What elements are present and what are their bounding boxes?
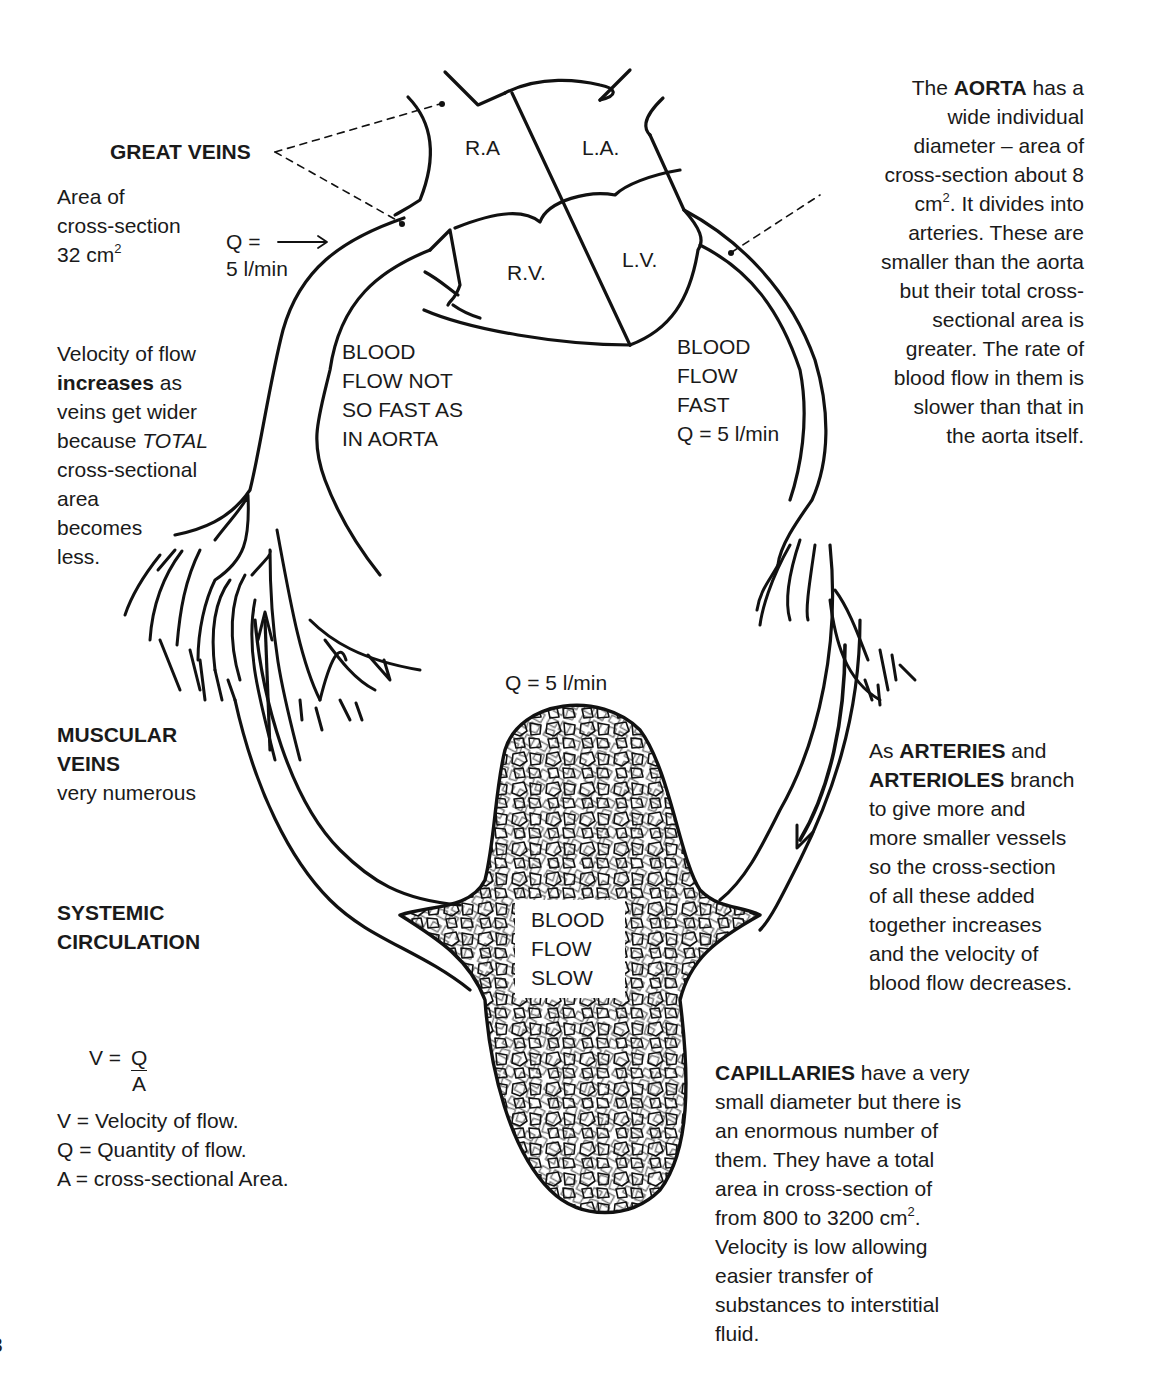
aorta-note-line: diameter – area of	[881, 131, 1084, 160]
chamber-label-left-ventricle: L.V.	[622, 245, 657, 274]
chamber-label-right-atrium: R.A	[465, 133, 500, 162]
venous-flow-label: BLOOD FLOW NOT SO FAST AS IN AORTA	[342, 337, 463, 453]
vein-note-line: less.	[57, 542, 208, 571]
formula-legend-item: V = Velocity of flow.	[57, 1106, 289, 1135]
chamber-label-left-atrium: L.A.	[582, 133, 619, 162]
arteries-note: As ARTERIES and ARTERIOLES branch to giv…	[869, 736, 1074, 997]
vein-note-line: veins get wider	[57, 397, 208, 426]
formula-legend-item: Q = Quantity of flow.	[57, 1135, 289, 1164]
great-veins-flow: Q = 5 l/min	[226, 228, 288, 282]
heart-outline	[395, 70, 701, 345]
velocity-formula: V = Q A	[89, 1046, 147, 1097]
aorta-note-line: cross-section about 8	[881, 160, 1084, 189]
aorta-note-line: cm2. It divides into	[881, 189, 1084, 218]
artery-long	[720, 545, 860, 930]
aorta-note-line: arteries. These are	[881, 218, 1084, 247]
vein-note-line: Velocity of flow	[57, 339, 208, 368]
vein-velocity-note: Velocity of flow increases as veins get …	[57, 339, 208, 571]
formula-legend: V = Velocity of flow. Q = Quantity of fl…	[57, 1106, 289, 1193]
aorta-note-line: the aorta itself.	[881, 421, 1084, 450]
aorta-note-line: greater. The rate of	[881, 334, 1084, 363]
vein-note-line: area	[57, 484, 208, 513]
capillary-inflow-label: Q = 5 l/min	[505, 668, 607, 697]
leader-lines	[275, 104, 820, 252]
great-veins-area-line: cross-section	[57, 211, 181, 240]
aorta-note-line: smaller than the aorta	[881, 247, 1084, 276]
aorta-note-line: wide individual	[881, 102, 1084, 131]
muscular-veins-label: MUSCULAR VEINS very numerous	[57, 720, 196, 807]
aorta-note: The AORTA has a wide individual diameter…	[881, 73, 1084, 450]
capillaries-note: CAPILLARIES have a very small diameter b…	[715, 1058, 969, 1348]
vein-note-line: becomes	[57, 513, 208, 542]
page-number-fragment: 3	[0, 1330, 3, 1359]
chamber-label-right-ventricle: R.V.	[507, 258, 546, 287]
vein-note-line: because TOTAL	[57, 426, 208, 455]
artery-branches	[757, 540, 915, 705]
great-veins-area-value: 32 cm2	[57, 240, 181, 269]
flow-q-label: Q =	[226, 228, 288, 255]
formula-legend-item: A = cross-sectional Area.	[57, 1164, 289, 1193]
aorta-note-line: blood flow in them is	[881, 363, 1084, 392]
great-veins-area: Area of cross-section 32 cm2	[57, 182, 181, 269]
great-veins-area-line: Area of	[57, 182, 181, 211]
aorta-note-line: but their total cross-	[881, 276, 1084, 305]
capillary-flow-label: BLOOD FLOW SLOW	[531, 905, 605, 992]
vein-note-line: increases as	[57, 368, 208, 397]
arterial-flow-label: BLOOD FLOW FAST Q = 5 l/min	[677, 332, 779, 448]
aorta-note-line: The AORTA has a	[881, 73, 1084, 102]
aorta-note-line: slower than that in	[881, 392, 1084, 421]
aorta-note-line: sectional area is	[881, 305, 1084, 334]
flow-q-value: 5 l/min	[226, 255, 288, 282]
vein-note-line: cross-sectional	[57, 455, 208, 484]
systemic-circulation-label: SYSTEMIC CIRCULATION	[57, 898, 200, 956]
great-veins-title: GREAT VEINS	[110, 137, 251, 166]
